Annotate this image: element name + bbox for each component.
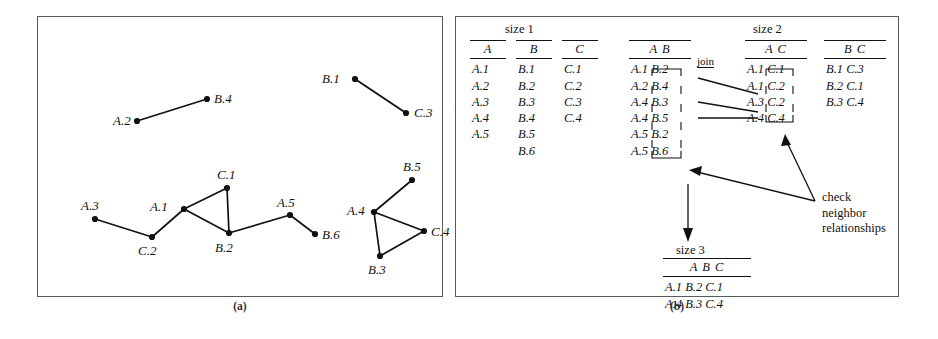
graph-node-B-5 (409, 177, 415, 183)
table-row: B.2 C.1 (824, 78, 886, 94)
graph-edge (137, 99, 207, 121)
graph-node-label-A-5: A.5 (277, 196, 295, 209)
size-3-heading: size 3 (676, 243, 705, 258)
table-B: B B.1B.2B.3B.4B.5B.6 (516, 40, 552, 159)
table-row: A.2 (470, 78, 506, 94)
note-line-1: check (822, 190, 886, 206)
graph-node-A-2 (134, 118, 140, 124)
graph-edge (355, 79, 406, 113)
check-neighbor-note: check neighbor relationships (822, 190, 886, 237)
table-A: A A.1A.2A.3A.4A.5 (470, 40, 506, 143)
table-AC-rows: A.1 C.1A.1 C.2A.3 C.2A.4 C.4 (745, 59, 807, 126)
table-row: B.2 (516, 78, 552, 94)
table-AB: A B A.1 B.2A.2 B.4A.4 B.3A.4 B.5A.5 B.2A… (629, 40, 691, 159)
graph-node-C-2 (149, 234, 155, 240)
note-line-2: neighbor (822, 206, 886, 222)
graph-node-C-3 (403, 110, 409, 116)
graph-node-A-3 (92, 216, 98, 222)
table-row: B.1 (516, 61, 552, 77)
graph-node-B-3 (377, 253, 383, 259)
table-row: B.6 (516, 143, 552, 159)
graph-node-B-4 (204, 96, 210, 102)
table-row: B.3 C.4 (824, 94, 886, 110)
table-row: B.3 (516, 94, 552, 110)
table-row: C.4 (562, 110, 598, 126)
figure-container: A.2B.4B.1C.3A.3C.2A.1C.1B.2A.5B.6A.4B.5B… (0, 0, 938, 339)
graph-edge (184, 188, 227, 209)
graph-edge (380, 231, 424, 256)
table-row: A.4 C.4 (745, 110, 807, 126)
table-row: A.5 (470, 126, 506, 142)
graph-node-label-B-5: B.5 (403, 160, 421, 173)
table-AC-header: A C (745, 40, 807, 59)
table-row: A.4 B.5 (629, 110, 691, 126)
graph-node-label-B-4: B.4 (214, 92, 232, 105)
caption-b: (b) (647, 300, 707, 312)
graph-edges (95, 79, 424, 256)
table-row: A.1 (470, 61, 506, 77)
table-A-rows: A.1A.2A.3A.4A.5 (470, 59, 506, 142)
table-AC: A C A.1 C.1A.1 C.2A.3 C.2A.4 C.4 (745, 40, 807, 126)
graph-edge (374, 212, 424, 231)
table-row: B.4 (516, 110, 552, 126)
graph-node-label-A-2: A.2 (113, 114, 131, 127)
graph-node-B-2 (226, 230, 232, 236)
graph-node-B-1 (352, 76, 358, 82)
table-ABC-header: A B C (663, 258, 751, 277)
table-A-header: A (470, 40, 506, 59)
note-line-3: relationships (822, 221, 886, 237)
graph-edge (184, 209, 229, 233)
table-row: A.5 B.2 (629, 126, 691, 142)
graph-node-label-C-3: C.3 (414, 106, 432, 119)
graph-node-A-1 (181, 206, 187, 212)
table-row: A.5 B.6 (629, 143, 691, 159)
table-row: A.4 B.3 (629, 94, 691, 110)
graph-edge (95, 219, 152, 237)
graph-node-label-A-4: A.4 (347, 204, 365, 217)
graph-node-label-B-1: B.1 (322, 72, 340, 85)
graph-edge (227, 188, 229, 233)
table-C: C C.1C.2C.3C.4 (562, 40, 598, 126)
table-C-header: C (562, 40, 598, 59)
table-row: A.1 B.2 (629, 61, 691, 77)
size-1-heading: size 1 (505, 22, 534, 37)
graph-edge (374, 180, 412, 212)
graph-node-label-B-6: B.6 (322, 228, 340, 241)
table-row: C.3 (562, 94, 598, 110)
table-BC: B C B.1 C.3B.2 C.1B.3 C.4 (824, 40, 886, 110)
table-AB-header: A B (629, 40, 691, 59)
table-row: A.1 B.2 C.1 (663, 279, 751, 295)
graph-node-label-B-2: B.2 (215, 241, 233, 254)
graph-node-C-4 (421, 228, 427, 234)
table-row: A.3 (470, 94, 506, 110)
table-row: B.1 C.3 (824, 61, 886, 77)
graph-node-label-C-2: C.2 (138, 244, 156, 257)
graph-node-A-5 (287, 212, 293, 218)
graph-edge (290, 215, 315, 234)
table-AB-rows: A.1 B.2A.2 B.4A.4 B.3A.4 B.5A.5 B.2A.5 B… (629, 59, 691, 159)
size-2-heading: size 2 (753, 22, 782, 37)
table-row: A.2 B.4 (629, 78, 691, 94)
graph-node-C-1 (224, 185, 230, 191)
graph-svg (37, 16, 443, 297)
graph-edge (374, 212, 380, 256)
caption-a: (a) (210, 300, 270, 312)
graph-node-label-A-3: A.3 (81, 199, 99, 212)
table-row: A.1 C.2 (745, 78, 807, 94)
table-row: C.1 (562, 61, 598, 77)
graph-node-label-B-3: B.3 (368, 263, 386, 276)
table-BC-rows: B.1 C.3B.2 C.1B.3 C.4 (824, 59, 886, 110)
table-row: A.3 C.2 (745, 94, 807, 110)
table-BC-header: B C (824, 40, 886, 59)
table-row: B.5 (516, 126, 552, 142)
table-B-header: B (516, 40, 552, 59)
table-row: A.4 (470, 110, 506, 126)
table-row: A.1 C.1 (745, 61, 807, 77)
graph-node-label-C-4: C.4 (431, 225, 449, 238)
graph-node-A-4 (371, 209, 377, 215)
join-label: join (697, 55, 714, 68)
graph-node-label-C-1: C.1 (217, 168, 235, 181)
graph-node-B-6 (312, 231, 318, 237)
table-C-rows: C.1C.2C.3C.4 (562, 59, 598, 126)
graph-node-label-A-1: A.1 (150, 200, 168, 213)
